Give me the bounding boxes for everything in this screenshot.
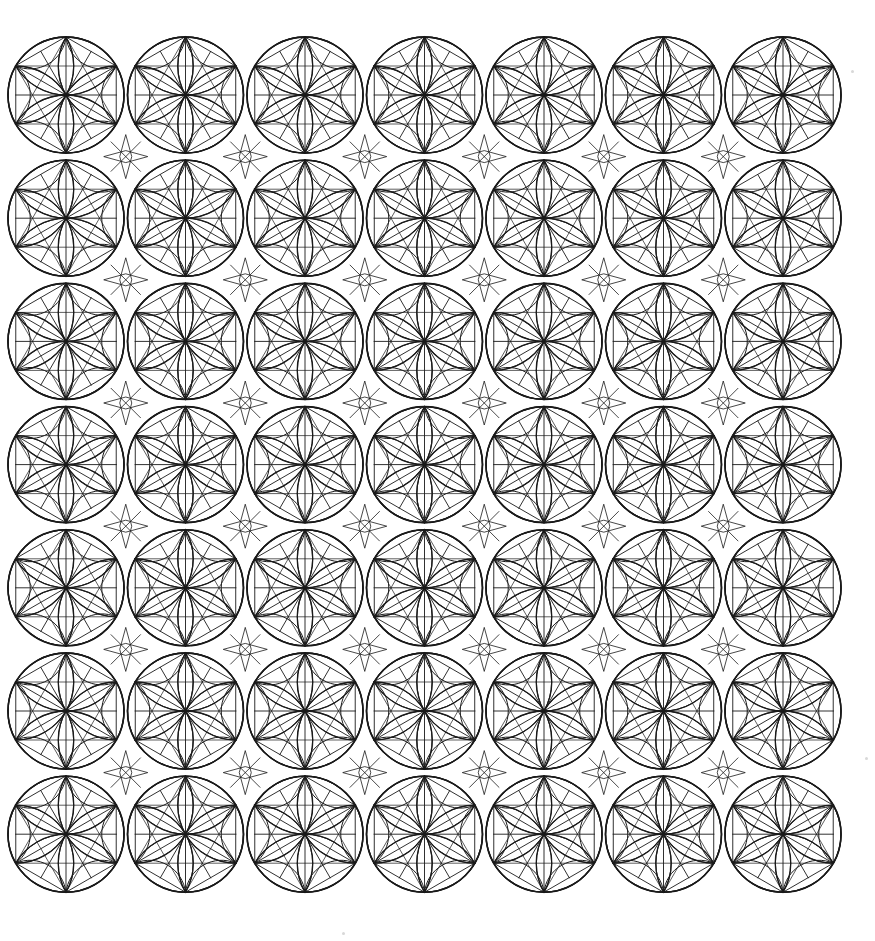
rosette-circle xyxy=(127,776,243,892)
interstitial-star xyxy=(582,627,626,671)
interstitial-star xyxy=(582,258,626,302)
rosette-circle xyxy=(605,283,721,399)
rosette-circle xyxy=(486,653,602,769)
rosette-circle xyxy=(486,776,602,892)
interstitial-star xyxy=(223,258,267,302)
rosette-circle xyxy=(486,160,602,276)
stray-mark xyxy=(851,70,854,73)
rosette-circle xyxy=(127,160,243,276)
interstitial-star xyxy=(343,258,387,302)
circle-grid-pattern xyxy=(0,0,875,941)
rosette-circle xyxy=(247,283,363,399)
interstitial-star xyxy=(701,504,745,548)
interstitial-star xyxy=(223,627,267,671)
interstitial-star xyxy=(462,751,506,795)
rosette-circle xyxy=(366,37,482,153)
rosette-circle xyxy=(8,407,124,523)
interstitial-star xyxy=(343,627,387,671)
rosette-circle xyxy=(725,653,841,769)
interstitial-star xyxy=(462,627,506,671)
rosette-circle xyxy=(247,530,363,646)
rosette-circle xyxy=(247,160,363,276)
interstitial-star xyxy=(462,258,506,302)
interstitial-star xyxy=(462,504,506,548)
interstitial-star xyxy=(104,751,148,795)
rosette-circle xyxy=(725,37,841,153)
rosette-circle xyxy=(486,530,602,646)
stray-mark xyxy=(342,932,345,935)
rosette-circle xyxy=(8,37,124,153)
rosette-circle xyxy=(127,407,243,523)
interstitial-star xyxy=(701,381,745,425)
rosette-circle xyxy=(366,283,482,399)
rosette-circle xyxy=(366,653,482,769)
interstitial-star xyxy=(223,504,267,548)
rosette-circle xyxy=(127,37,243,153)
rosette-circle xyxy=(725,407,841,523)
interstitial-star xyxy=(104,135,148,179)
interstitial-star xyxy=(582,381,626,425)
rosette-circle xyxy=(366,160,482,276)
rosette-circle xyxy=(725,283,841,399)
rosette-circle xyxy=(366,776,482,892)
interstitial-star xyxy=(582,135,626,179)
rosette-circle xyxy=(605,653,721,769)
rosette-circle xyxy=(247,776,363,892)
interstitial-star xyxy=(104,258,148,302)
interstitial-star xyxy=(343,751,387,795)
interstitial-star xyxy=(343,504,387,548)
interstitial-star xyxy=(223,135,267,179)
rosette-circle xyxy=(486,37,602,153)
rosette-circle xyxy=(127,653,243,769)
interstitial-star xyxy=(701,751,745,795)
rosette-circle xyxy=(725,530,841,646)
rosette-circle xyxy=(605,37,721,153)
rosette-circle xyxy=(8,653,124,769)
interstitial-star xyxy=(104,504,148,548)
rosette-circle xyxy=(8,776,124,892)
rosette-circle xyxy=(605,160,721,276)
interstitial-star xyxy=(582,504,626,548)
interstitial-star xyxy=(343,381,387,425)
rosette-circle xyxy=(247,653,363,769)
rosette-circle xyxy=(725,776,841,892)
rosette-circle xyxy=(486,283,602,399)
interstitial-star xyxy=(223,751,267,795)
rosette-circle xyxy=(127,530,243,646)
interstitial-star xyxy=(104,381,148,425)
stray-mark xyxy=(865,757,868,760)
interstitial-star xyxy=(701,135,745,179)
interstitial-star xyxy=(343,135,387,179)
rosette-circle xyxy=(605,407,721,523)
interstitial-star xyxy=(582,751,626,795)
rosette-circle xyxy=(8,530,124,646)
rosette-circle xyxy=(247,37,363,153)
interstitial-star xyxy=(701,258,745,302)
interstitial-star xyxy=(462,381,506,425)
rosette-circle xyxy=(366,530,482,646)
rosette-circle xyxy=(486,407,602,523)
rosette-circle xyxy=(605,776,721,892)
rosette-circle xyxy=(8,283,124,399)
interstitial-star xyxy=(701,627,745,671)
interstitial-star xyxy=(462,135,506,179)
rosette-circle xyxy=(725,160,841,276)
rosette-circle xyxy=(127,283,243,399)
rosette-circle xyxy=(247,407,363,523)
rosette-circle xyxy=(366,407,482,523)
rosette-circle xyxy=(605,530,721,646)
rosette-circle xyxy=(8,160,124,276)
interstitial-star xyxy=(223,381,267,425)
interstitial-star xyxy=(104,627,148,671)
